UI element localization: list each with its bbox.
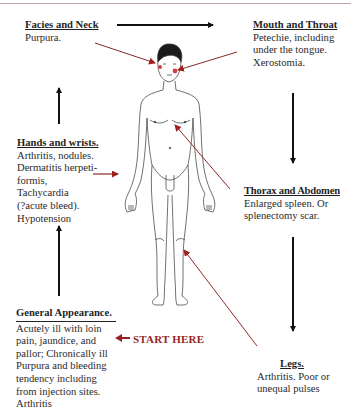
section-facies-and-neck: Facies and Neck Purpura. [25,19,99,44]
section-title: General Appearance. [16,307,116,322]
section-title: Legs. [257,358,327,371]
pointer-legs [184,250,257,346]
section-title: Mouth and Throat [253,19,337,32]
section-mouth-and-throat: Mouth and Throat Petechie, including und… [253,19,337,69]
section-body: Purpura. [25,32,99,45]
section-thorax-and-abdomen: Thorax and Abdomen Enlarged spleen. Or s… [244,185,351,223]
pointer-mouth [178,52,237,70]
section-body: Enlarged spleen. Or splenectomy scar. [244,198,351,223]
section-body: Petechie, including under the tongue. Xe… [253,32,337,70]
human-body-figure [125,44,215,305]
section-title: Facies and Neck [25,19,99,32]
section-body: Acutely ill with loin pain, jaundice, an… [16,323,116,408]
start-arrow-icon [115,334,130,342]
start-here-label: START HERE [133,333,204,345]
pointer-facies [95,43,155,63]
section-title: Hands and wrists. [17,137,117,150]
section-body: Arthritis. Poor or unequal pulses [257,371,351,396]
pointer-thorax [175,125,230,189]
section-hands-and-wrists: Hands and wrists. Arthritis, nodules. De… [17,137,117,225]
section-general-appearance: General Appearance. Acutely ill with loi… [16,307,116,408]
section-legs: Legs. Arthritis. Poor or unequal pulses [257,358,351,396]
section-title: Thorax and Abdomen [244,185,351,198]
section-body: Arthritis, nodules. Dermatitis herpeti- … [17,150,117,226]
